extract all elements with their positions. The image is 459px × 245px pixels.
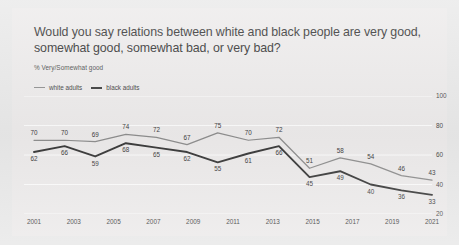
- data-label: 62: [30, 155, 37, 162]
- legend-item-black-adults: black adults: [91, 84, 139, 91]
- data-label: 54: [367, 153, 374, 160]
- data-label: 43: [428, 169, 435, 176]
- chart-subtitle: % Very/Somewhat good: [34, 64, 103, 71]
- legend-label: black adults: [106, 84, 139, 91]
- y-axis-tick-label: 20: [436, 210, 443, 217]
- y-axis-tick-label: 100: [436, 92, 447, 99]
- x-axis-labels: 2001200320052007200920112013201520172019…: [24, 218, 459, 232]
- data-label: 70: [30, 129, 37, 136]
- chart-legend: white adults black adults: [34, 84, 140, 91]
- data-label: 59: [92, 160, 99, 167]
- data-label: 61: [245, 157, 252, 164]
- data-label: 75: [214, 122, 221, 129]
- x-axis-tick-label: 2019: [385, 218, 399, 225]
- x-axis-tick-label: 2017: [345, 218, 359, 225]
- x-axis-tick-label: 2009: [186, 218, 200, 225]
- legend-swatch-line-icon: [34, 87, 45, 88]
- data-label: 36: [398, 193, 405, 200]
- data-label: 66: [61, 149, 68, 156]
- data-label: 68: [122, 146, 129, 153]
- x-axis-tick-label: 2011: [226, 218, 240, 225]
- data-label: 45: [306, 180, 313, 187]
- data-label: 62: [184, 155, 191, 162]
- data-label: 55: [214, 165, 221, 172]
- x-axis-tick-label: 2005: [106, 218, 120, 225]
- data-label: 46: [398, 165, 405, 172]
- data-label: 33: [428, 198, 435, 205]
- data-label: 70: [245, 129, 252, 136]
- data-label: 70: [61, 129, 68, 136]
- data-label: 49: [337, 174, 344, 181]
- data-label: 66: [275, 149, 282, 156]
- legend-item-white-adults: white adults: [34, 84, 82, 91]
- legend-swatch-line-icon: [91, 87, 102, 89]
- chart-title: Would you say relations between white an…: [34, 25, 434, 56]
- data-label: 40: [367, 188, 374, 195]
- y-axis-labels: 10080604020: [436, 96, 459, 214]
- y-axis-tick-label: 40: [436, 181, 443, 188]
- data-label: 51: [306, 157, 313, 164]
- data-label: 65: [153, 151, 160, 158]
- x-axis-tick-label: 2001: [27, 218, 41, 225]
- legend-label: white adults: [49, 84, 82, 91]
- y-axis-tick-label: 60: [436, 151, 443, 158]
- x-axis-tick-label: 2021: [425, 218, 439, 225]
- data-label: 72: [153, 126, 160, 133]
- x-axis-tick-label: 2013: [266, 218, 280, 225]
- x-axis-tick-label: 2003: [67, 218, 81, 225]
- x-axis-tick-label: 2007: [146, 218, 160, 225]
- x-axis-tick-label: 2015: [305, 218, 319, 225]
- data-label: 74: [122, 123, 129, 130]
- data-label: 69: [92, 131, 99, 138]
- chart-screenshot: Would you say relations between white an…: [0, 0, 459, 245]
- data-label: 67: [184, 134, 191, 141]
- data-label: 58: [337, 147, 344, 154]
- chart-card: Would you say relations between white an…: [12, 8, 447, 236]
- data-label: 72: [275, 126, 282, 133]
- plot-area: 7070697472677570725158544643626659686562…: [24, 96, 434, 214]
- y-axis-tick-label: 80: [436, 122, 443, 129]
